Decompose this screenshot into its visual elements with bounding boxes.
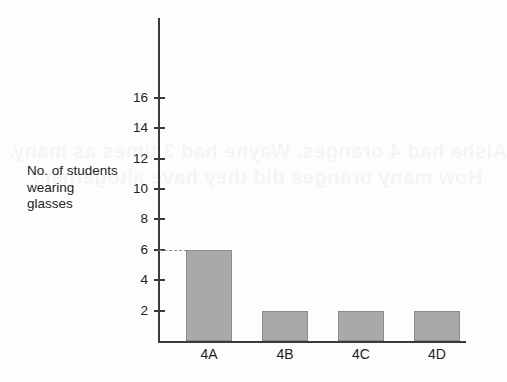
y-axis-line — [158, 18, 160, 343]
y-tick-label-text: 6 — [120, 243, 148, 257]
y-tick-label-text: 16 — [120, 91, 148, 105]
y-tick-mark — [154, 218, 165, 220]
y-tick-label: 4 — [116, 273, 148, 287]
y-tick-label: 12 — [116, 152, 148, 166]
y-tick-label-text: 12 — [120, 152, 148, 166]
y-tick-label: 2 — [116, 304, 148, 318]
bar-4A — [186, 250, 232, 341]
y-tick-label: 10 — [116, 182, 148, 196]
y-tick-mark — [154, 97, 165, 99]
y-tick-label-text: 8 — [120, 212, 148, 226]
y-tick-mark — [154, 310, 165, 312]
y-tick-label-text: 14 — [120, 121, 148, 135]
x-axis-line — [158, 341, 466, 343]
y-tick-label-text: 2 — [120, 304, 148, 318]
y-tick-label-text: 4 — [120, 273, 148, 287]
y-tick-label: 14 — [116, 121, 148, 135]
y-tick-mark — [154, 279, 165, 281]
category-label-4D: 4D — [417, 347, 457, 361]
bar-4B — [262, 311, 308, 341]
ghost-text-line-1: Aisha had 4 oranges. Wayne had 3 times a… — [8, 140, 507, 163]
bar-4C — [338, 311, 384, 341]
y-tick-mark — [154, 127, 165, 129]
category-label-4C: 4C — [341, 347, 381, 361]
bar-4D — [414, 311, 460, 341]
y-tick-label: 6 — [116, 243, 148, 257]
category-label-4B: 4B — [265, 347, 305, 361]
dashed-guide-line — [159, 250, 232, 251]
y-tick-label: 16 — [116, 91, 148, 105]
y-axis-title-line-3: glasses — [27, 196, 139, 213]
y-tick-mark — [154, 158, 165, 160]
y-tick-label-text: 10 — [120, 182, 148, 196]
category-label-4A: 4A — [189, 347, 229, 361]
y-tick-label: 8 — [116, 212, 148, 226]
y-tick-mark — [154, 188, 165, 190]
